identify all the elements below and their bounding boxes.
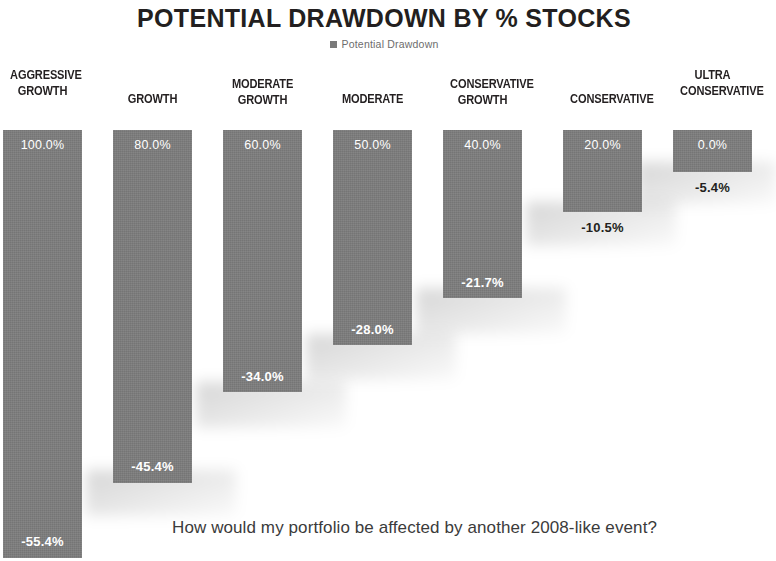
category-label: GROWTH bbox=[120, 91, 185, 107]
bar[interactable] bbox=[113, 130, 192, 483]
bar-group: CONSERVATIVE GROWTH 40.0% -21.7% bbox=[443, 0, 522, 561]
stock-allocation-label: 60.0% bbox=[223, 138, 302, 152]
category-label: ULTRA CONSERVATIVE bbox=[680, 67, 745, 99]
category-label: CONSERVATIVE GROWTH bbox=[450, 76, 515, 108]
stock-allocation-label: 50.0% bbox=[333, 138, 412, 152]
bar-group: MODERATE 50.0% -28.0% bbox=[333, 0, 412, 561]
chart-caption: How would my portfolio be affected by an… bbox=[172, 518, 657, 538]
bar-group: MODERATE GROWTH 60.0% -34.0% bbox=[223, 0, 302, 561]
stock-allocation-label: 80.0% bbox=[113, 138, 192, 152]
drawdown-label: -5.4% bbox=[673, 180, 752, 195]
stock-allocation-label: 40.0% bbox=[443, 138, 522, 152]
drawdown-label: -10.5% bbox=[563, 220, 642, 235]
bar[interactable] bbox=[223, 130, 302, 392]
drawdown-label: -34.0% bbox=[223, 369, 302, 384]
category-label: CONSERVATIVE bbox=[570, 91, 635, 107]
drawdown-label: -28.0% bbox=[333, 322, 412, 337]
bar-group: AGGRESSIVE GROWTH 100.0% -55.4% bbox=[3, 0, 82, 561]
category-label: MODERATE GROWTH bbox=[230, 76, 295, 108]
bar[interactable] bbox=[443, 130, 522, 298]
drawdown-label: -45.4% bbox=[113, 459, 192, 474]
drawdown-label: -55.4% bbox=[3, 534, 82, 549]
stock-allocation-label: 100.0% bbox=[3, 138, 82, 152]
category-label: MODERATE bbox=[340, 91, 405, 107]
category-label: AGGRESSIVE GROWTH bbox=[10, 67, 75, 99]
stock-allocation-label: 0.0% bbox=[673, 138, 752, 152]
bar[interactable] bbox=[3, 130, 82, 558]
bar-group: GROWTH 80.0% -45.4% bbox=[113, 0, 192, 561]
drawdown-label: -21.7% bbox=[443, 275, 522, 290]
bar-group: CONSERVATIVE 20.0% -10.5% bbox=[563, 0, 642, 561]
stock-allocation-label: 20.0% bbox=[563, 138, 642, 152]
bar-group: ULTRA CONSERVATIVE 0.0% -5.4% bbox=[673, 0, 752, 561]
bar[interactable] bbox=[333, 130, 412, 345]
